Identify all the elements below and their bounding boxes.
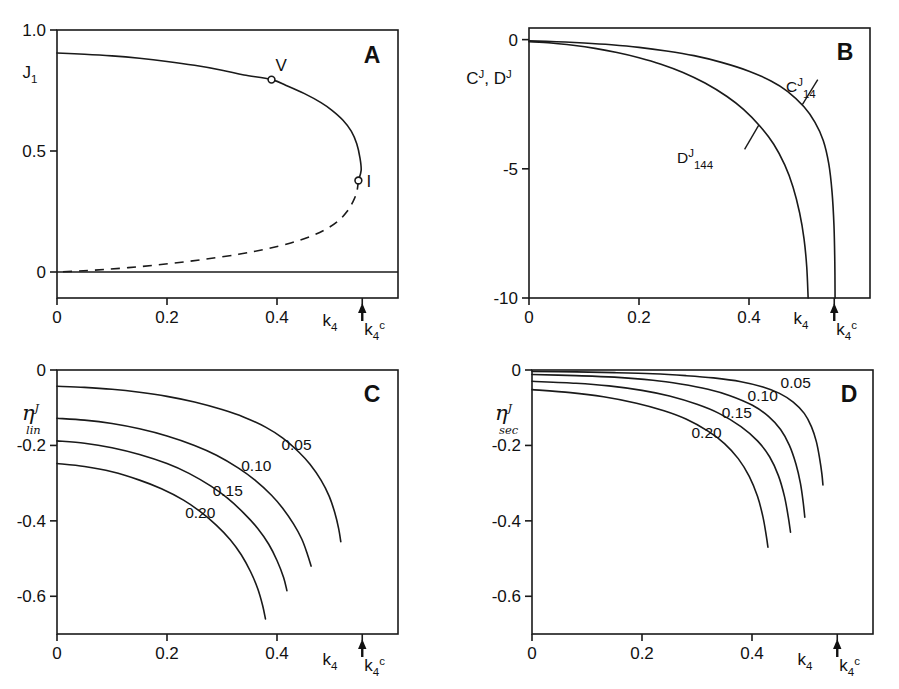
panel-letter: D <box>841 381 858 407</box>
curve-label-d144: DJ144 <box>677 147 714 171</box>
x-axis-label: k4 <box>323 650 339 672</box>
svg-text:-0.6: -0.6 <box>17 587 46 606</box>
leader-line-d144 <box>745 125 759 150</box>
panel-d-svg: 0.05 0.10 0.15 0.20 00.20.40-0.2-0.4-0.6… <box>449 344 899 689</box>
svg-text:0.2: 0.2 <box>155 644 179 663</box>
figure-root: V I 00.20.400.51.0 A J1 k4 k4c <box>0 0 899 689</box>
axis-ticks: 00.20.40-5-10 <box>493 31 760 327</box>
svg-text:-0.2: -0.2 <box>17 436 46 455</box>
panel-b: CJ14 DJ144 00.20.40-5-10 B CJ, DJ k4 k4c <box>449 0 899 345</box>
panel-letter: A <box>364 42 381 68</box>
panel-c-svg: 0.05 0.10 0.15 0.20 00.20.40-0.2-0.4-0.6… <box>0 344 450 689</box>
curve-label-0-15: 0.15 <box>213 482 243 499</box>
svg-text:0.4: 0.4 <box>737 308 761 327</box>
panel-a-svg: V I 00.20.400.51.0 A J1 k4 k4c <box>0 0 450 345</box>
svg-text:k4c: k4c <box>836 319 857 342</box>
panel-letter: B <box>837 39 854 65</box>
axis-ticks: 00.20.400.51.0 <box>22 21 288 327</box>
svg-text:0: 0 <box>37 361 46 380</box>
svg-text:0: 0 <box>52 644 61 663</box>
curve-label-0-10: 0.10 <box>748 387 779 404</box>
panel-d: 0.05 0.10 0.15 0.20 00.20.40-0.2-0.4-0.6… <box>449 344 899 689</box>
y-axis-label: CJ, DJ <box>466 68 512 88</box>
curve-d-144 <box>529 42 808 298</box>
svg-text:0: 0 <box>512 361 521 380</box>
svg-text:0.4: 0.4 <box>265 308 289 327</box>
curve-label-0-20: 0.20 <box>692 424 723 441</box>
x-axis-label: k4 <box>794 309 810 331</box>
y-axis-label: ηJsec <box>495 401 519 437</box>
svg-text:0.2: 0.2 <box>627 308 651 327</box>
y-axis-label: J1 <box>23 63 38 85</box>
svg-text:0: 0 <box>509 31 518 50</box>
curve-label-0-15: 0.15 <box>722 404 752 421</box>
svg-text:k4c: k4c <box>839 655 860 678</box>
svg-text:k4c: k4c <box>364 319 385 342</box>
svg-text:k4c: k4c <box>364 655 385 678</box>
curve-label-0-05: 0.05 <box>781 374 811 391</box>
curve-0-10 <box>57 418 311 566</box>
plot-frame <box>532 370 873 634</box>
critical-tick-marker: k4c <box>830 298 857 342</box>
panel-c: 0.05 0.10 0.15 0.20 00.20.40-0.2-0.4-0.6… <box>0 344 450 689</box>
curve-label-0-10: 0.10 <box>241 457 272 474</box>
curve-label-0-20: 0.20 <box>185 504 216 521</box>
svg-text:-5: -5 <box>503 160 518 179</box>
critical-tick-marker: k4c <box>358 634 385 678</box>
svg-text:-0.6: -0.6 <box>492 587 521 606</box>
panel-a: V I 00.20.400.51.0 A J1 k4 k4c <box>0 0 450 345</box>
y-axis-label: ηJlin <box>22 401 41 437</box>
svg-text:0.2: 0.2 <box>155 308 179 327</box>
svg-text:0: 0 <box>524 308 533 327</box>
panel-b-svg: CJ14 DJ144 00.20.40-5-10 B CJ, DJ k4 k4c <box>449 0 899 345</box>
x-axis-label: k4 <box>323 311 339 333</box>
svg-text:0: 0 <box>52 308 61 327</box>
panel-a-plot-area: V I 00.20.400.51.0 A J1 k4 k4c <box>22 21 398 342</box>
svg-text:-0.2: -0.2 <box>492 436 521 455</box>
panel-letter: C <box>364 381 381 407</box>
svg-text:0: 0 <box>37 263 46 282</box>
annotation-label-i: I <box>366 172 371 191</box>
critical-tick-marker: k4c <box>833 634 860 678</box>
curve-lower-unstable-branch <box>57 181 358 272</box>
svg-text:0.4: 0.4 <box>265 644 289 663</box>
svg-text:-0.4: -0.4 <box>17 512 46 531</box>
curve-label-c14: CJ14 <box>786 76 816 100</box>
svg-text:0.4: 0.4 <box>740 644 764 663</box>
svg-text:0.2: 0.2 <box>630 644 654 663</box>
curve-upper-stable-branch <box>57 53 361 181</box>
panel-c-plot-area: 0.05 0.10 0.15 0.20 00.20.40-0.2-0.4-0.6… <box>17 361 398 678</box>
svg-text:1.0: 1.0 <box>22 21 46 40</box>
plot-frame <box>57 370 398 634</box>
panel-d-plot-area: 0.05 0.10 0.15 0.20 00.20.40-0.2-0.4-0.6… <box>492 361 873 678</box>
critical-tick-marker: k4c <box>358 298 385 342</box>
svg-text:0: 0 <box>527 644 536 663</box>
svg-text:0.5: 0.5 <box>22 142 46 161</box>
marker-i <box>355 177 362 184</box>
plot-frame <box>57 30 398 298</box>
x-axis-label: k4 <box>798 650 814 672</box>
svg-text:-10: -10 <box>493 289 518 308</box>
panel-b-plot-area: CJ14 DJ144 00.20.40-5-10 B CJ, DJ k4 k4c <box>466 28 870 342</box>
svg-text:-0.4: -0.4 <box>492 512 521 531</box>
curve-label-0-05: 0.05 <box>281 436 311 453</box>
annotation-label-v: V <box>276 56 288 75</box>
marker-v <box>268 76 275 83</box>
